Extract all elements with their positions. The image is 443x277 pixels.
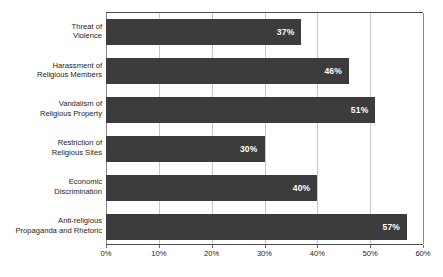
bar-value-label: 51% bbox=[351, 105, 376, 115]
bar[interactable]: 30% bbox=[106, 136, 265, 162]
x-tick-mark bbox=[370, 245, 371, 248]
x-tick-label: 10% bbox=[151, 249, 166, 258]
bar-value-label: 37% bbox=[277, 27, 302, 37]
bar[interactable]: 57% bbox=[106, 214, 407, 240]
x-tick-label: 20% bbox=[204, 249, 219, 258]
x-tick-mark bbox=[265, 245, 266, 248]
bar[interactable]: 51% bbox=[106, 97, 375, 123]
x-tick-mark bbox=[423, 245, 424, 248]
bar-chart: Threat of ViolenceHarassment of Religiou… bbox=[0, 0, 443, 277]
category-label: Harassment of Religious Members bbox=[0, 61, 102, 80]
bar-band: 46% bbox=[106, 52, 423, 91]
x-tick-mark bbox=[106, 245, 107, 248]
gridline-60pct bbox=[423, 13, 424, 244]
x-axis-tick-labels: 0%10%20%30%40%50%60% bbox=[106, 249, 423, 265]
x-tick-label: 60% bbox=[415, 249, 430, 258]
bar-band: 30% bbox=[106, 130, 423, 169]
category-axis-labels: Threat of ViolenceHarassment of Religiou… bbox=[0, 12, 102, 245]
bar-band: 40% bbox=[106, 168, 423, 207]
bar[interactable]: 40% bbox=[106, 175, 317, 201]
bar-band: 37% bbox=[106, 13, 423, 52]
x-tick-label: 30% bbox=[257, 249, 272, 258]
x-tick-label: 40% bbox=[310, 249, 325, 258]
x-tick-mark bbox=[317, 245, 318, 248]
bar-value-label: 46% bbox=[324, 66, 349, 76]
bar-value-label: 40% bbox=[293, 183, 318, 193]
plot-area: 37%46%51%30%40%57% bbox=[106, 12, 423, 245]
bar-series: 37%46%51%30%40%57% bbox=[106, 13, 423, 244]
category-label: Vandalism of Religious Property bbox=[0, 99, 102, 118]
x-tick-mark bbox=[159, 245, 160, 248]
x-tick-label: 0% bbox=[101, 249, 112, 258]
category-label: Anti-religious Propaganda and Rhetoric bbox=[0, 216, 102, 235]
bar-band: 51% bbox=[106, 91, 423, 130]
category-label: Threat of Violence bbox=[0, 22, 102, 41]
bar-value-label: 57% bbox=[383, 222, 408, 232]
bar-value-label: 30% bbox=[240, 144, 265, 154]
bar[interactable]: 46% bbox=[106, 58, 349, 84]
x-tick-label: 50% bbox=[363, 249, 378, 258]
category-label: Restriction of Religious Sites bbox=[0, 138, 102, 157]
x-tick-mark bbox=[212, 245, 213, 248]
category-label: Economic Discrimination bbox=[0, 177, 102, 196]
bar-band: 57% bbox=[106, 207, 423, 246]
bar[interactable]: 37% bbox=[106, 19, 301, 45]
